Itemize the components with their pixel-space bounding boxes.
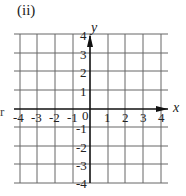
y-tick-label: 2 xyxy=(80,66,87,79)
y-tick-label: 3 xyxy=(80,48,87,61)
x-tick-label: 2 xyxy=(122,111,129,124)
x-tick-label: 4 xyxy=(158,111,165,124)
y-tick-label: -4 xyxy=(76,177,87,190)
x-tick-label: -4 xyxy=(13,111,24,124)
y-tick-label: 1 xyxy=(80,85,87,98)
y-tick-label: -3 xyxy=(76,159,87,172)
x-tick-label: 1 xyxy=(104,111,111,124)
x-tick-label: -2 xyxy=(49,111,60,124)
x-tick-label: 3 xyxy=(140,111,147,124)
x-tick-label: -3 xyxy=(31,111,42,124)
y-tick-label: -1 xyxy=(76,122,87,135)
y-axis-label: y xyxy=(91,20,97,36)
x-axis-label: x xyxy=(173,100,179,116)
y-tick-label: 4 xyxy=(80,29,87,42)
y-tick-label: -2 xyxy=(76,141,87,154)
